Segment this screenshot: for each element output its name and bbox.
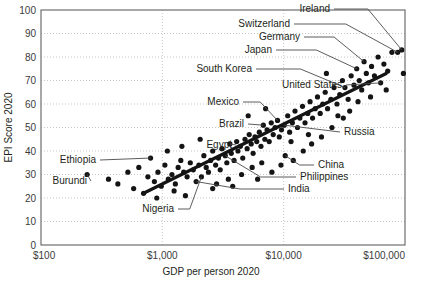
data-point bbox=[278, 163, 283, 168]
data-point bbox=[145, 174, 150, 179]
data-point bbox=[295, 125, 300, 130]
data-point bbox=[171, 188, 176, 193]
data-point bbox=[307, 99, 312, 104]
data-point bbox=[259, 160, 264, 165]
data-point bbox=[325, 106, 330, 111]
data-point bbox=[354, 66, 359, 71]
annotation-label: Switzerland bbox=[238, 18, 290, 29]
data-point bbox=[136, 165, 141, 170]
data-point bbox=[309, 141, 314, 146]
y-tick-label: 0 bbox=[30, 240, 36, 251]
y-tick-label: 20 bbox=[25, 193, 37, 204]
data-point bbox=[240, 155, 245, 160]
y-tick-label: 80 bbox=[25, 52, 37, 63]
data-point bbox=[271, 132, 276, 137]
data-point bbox=[357, 78, 362, 83]
data-point bbox=[355, 99, 360, 104]
data-point bbox=[245, 146, 250, 151]
data-point bbox=[283, 153, 288, 158]
data-point bbox=[115, 181, 120, 186]
data-point bbox=[302, 120, 307, 125]
annotation-leader-line bbox=[285, 156, 314, 165]
epi-gdp-scatter-chart: 0102030405060708090100$100$1,000$10,000$… bbox=[0, 0, 431, 287]
data-point bbox=[250, 165, 255, 170]
annotation-leader-line bbox=[276, 50, 357, 69]
data-point bbox=[334, 101, 339, 106]
data-point bbox=[287, 130, 292, 135]
data-point bbox=[364, 71, 369, 76]
data-point bbox=[178, 158, 183, 163]
x-tick-label: $1,000 bbox=[147, 250, 178, 261]
data-point bbox=[335, 113, 340, 118]
annotation-label: India bbox=[288, 183, 310, 194]
data-point bbox=[169, 172, 174, 177]
data-point bbox=[269, 120, 274, 125]
data-point bbox=[234, 139, 239, 144]
data-point bbox=[341, 116, 346, 121]
annotation-label: Nigeria bbox=[142, 203, 174, 214]
data-point bbox=[251, 151, 256, 156]
data-point bbox=[162, 163, 167, 168]
data-point bbox=[323, 90, 328, 95]
data-point bbox=[226, 177, 231, 182]
data-point bbox=[342, 85, 347, 90]
x-tick-label: $10,000 bbox=[266, 250, 303, 261]
data-point bbox=[375, 54, 380, 59]
data-point bbox=[319, 134, 324, 139]
data-point bbox=[183, 193, 188, 198]
data-point bbox=[292, 108, 297, 113]
data-point bbox=[310, 116, 315, 121]
data-point bbox=[176, 165, 181, 170]
annotation-label: Ireland bbox=[299, 3, 330, 14]
data-point bbox=[185, 174, 190, 179]
y-tick-label: 90 bbox=[25, 28, 37, 39]
y-tick-label: 70 bbox=[25, 75, 37, 86]
data-point bbox=[165, 148, 170, 153]
data-point bbox=[279, 127, 284, 132]
data-point bbox=[204, 165, 209, 170]
data-point bbox=[173, 181, 178, 186]
annotation-label: Germany bbox=[259, 31, 300, 42]
y-tick-label: 50 bbox=[25, 122, 37, 133]
y-tick-label: 60 bbox=[25, 99, 37, 110]
data-point bbox=[198, 137, 203, 142]
chart-svg: 0102030405060708090100$100$1,000$10,000$… bbox=[0, 0, 431, 287]
data-point bbox=[201, 153, 206, 158]
data-point bbox=[258, 144, 263, 149]
data-point bbox=[368, 94, 373, 99]
data-point bbox=[346, 97, 351, 102]
y-tick-label: 40 bbox=[25, 146, 37, 157]
data-point bbox=[179, 144, 184, 149]
y-axis-title: EPI Score 2020 bbox=[3, 92, 14, 162]
y-tick-label: 30 bbox=[25, 169, 37, 180]
y-tick-label: 100 bbox=[19, 5, 36, 16]
annotation-label: China bbox=[318, 159, 345, 170]
annotation-leader-line bbox=[294, 24, 398, 52]
data-point bbox=[239, 172, 244, 177]
data-point bbox=[288, 139, 293, 144]
data-point bbox=[213, 163, 218, 168]
annotation-label: South Korea bbox=[196, 63, 252, 74]
data-point bbox=[349, 73, 354, 78]
annotation-label: Russia bbox=[344, 126, 375, 137]
data-point bbox=[267, 139, 272, 144]
data-point bbox=[154, 195, 159, 200]
data-point bbox=[324, 71, 329, 76]
data-point bbox=[347, 108, 352, 113]
data-point bbox=[218, 167, 223, 172]
data-point bbox=[301, 148, 306, 153]
data-point bbox=[106, 177, 111, 182]
data-point bbox=[318, 111, 323, 116]
annotation-leader-line bbox=[334, 9, 402, 50]
data-point bbox=[246, 113, 251, 118]
annotation-label: Egypt bbox=[206, 139, 232, 150]
data-point bbox=[315, 94, 320, 99]
data-point bbox=[401, 71, 406, 76]
annotation-label: Philippines bbox=[300, 171, 348, 182]
annotation-label: Burundi bbox=[53, 175, 87, 186]
data-point bbox=[384, 87, 389, 92]
y-tick-label: 10 bbox=[25, 216, 37, 227]
data-point bbox=[381, 61, 386, 66]
data-point bbox=[125, 170, 130, 175]
data-point bbox=[152, 179, 157, 184]
